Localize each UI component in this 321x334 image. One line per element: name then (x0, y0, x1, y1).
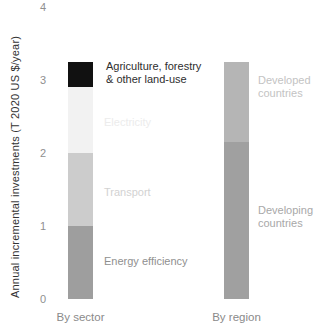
label-developed-countries: Developed countries (258, 74, 311, 100)
segment-agriculture-forestry-other-land-use (68, 62, 93, 88)
y-tick-0: 0 (16, 293, 46, 305)
y-tick-2: 2 (16, 147, 46, 159)
segment-electricity (68, 87, 93, 153)
segment-transport (68, 153, 93, 226)
bar-by-region (224, 62, 249, 299)
label-agriculture-forestry-land-use: Agriculture, forestry & other land-use (106, 60, 201, 86)
label-developing-countries: Developing countries (258, 204, 313, 230)
x-category-by-sector: By sector (40, 311, 121, 323)
y-tick-3: 3 (16, 74, 46, 86)
stacked-bar-chart: Annual incremental investments (T 2020 U… (0, 0, 321, 334)
x-category-by-region: By region (196, 311, 277, 323)
segment-developed-countries (224, 62, 249, 142)
label-transport: Transport (104, 186, 151, 199)
y-tick-1: 1 (16, 220, 46, 232)
segment-energy-efficiency (68, 226, 93, 299)
y-tick-4: 4 (16, 1, 46, 13)
label-energy-efficiency: Energy efficiency (104, 255, 188, 268)
segment-developing-countries (224, 142, 249, 299)
label-electricity: Electricity (104, 116, 151, 129)
bar-by-sector (68, 62, 93, 299)
